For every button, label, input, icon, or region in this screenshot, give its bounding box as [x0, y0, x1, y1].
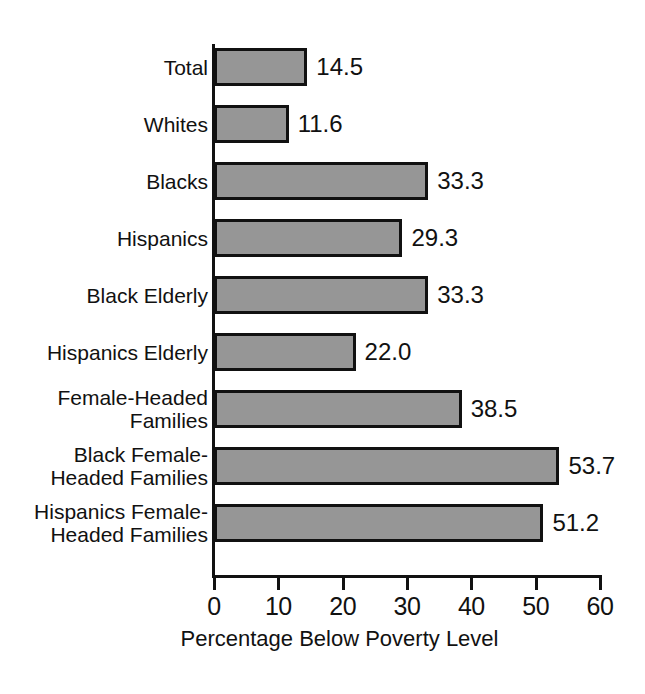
x-axis-tick — [342, 578, 345, 590]
x-axis-tick — [535, 578, 538, 590]
x-axis-tick-label: 0 — [184, 592, 244, 621]
x-axis-tick-label: 30 — [377, 592, 437, 621]
bar-row: Hispanics Female- Headed Families51.2 — [0, 504, 645, 542]
bar-row: Black Elderly33.3 — [0, 276, 645, 314]
bar-row: Black Female- Headed Families53.7 — [0, 447, 645, 485]
x-axis-title: Percentage Below Poverty Level — [0, 626, 645, 652]
bar — [214, 504, 543, 542]
x-axis-tick-label: 10 — [248, 592, 308, 621]
category-label: Total — [0, 56, 208, 79]
bar-value-label: 22.0 — [365, 338, 412, 366]
bar-row: Hispanics Elderly22.0 — [0, 333, 645, 371]
x-axis-tick — [470, 578, 473, 590]
x-axis-tick — [406, 578, 409, 590]
x-axis-tick-label: 40 — [441, 592, 501, 621]
bar — [214, 48, 307, 86]
category-label: Hispanics — [0, 227, 208, 250]
x-axis-tick — [599, 578, 602, 590]
bar — [214, 447, 559, 485]
category-label: Black Female- Headed Families — [0, 443, 208, 489]
x-axis-tick — [213, 578, 216, 590]
bar-row: Blacks33.3 — [0, 162, 645, 200]
bar — [214, 105, 289, 143]
bar-row: Whites11.6 — [0, 105, 645, 143]
bar — [214, 333, 356, 371]
bar-value-label: 38.5 — [471, 395, 518, 423]
poverty-bar-chart: 0102030405060 Total14.5Whites11.6Blacks3… — [0, 0, 645, 694]
bar-row: Hispanics29.3 — [0, 219, 645, 257]
bar-row: Female-Headed Families38.5 — [0, 390, 645, 428]
bar-value-label: 29.3 — [411, 224, 458, 252]
category-label: Hispanics Elderly — [0, 341, 208, 364]
bar-value-label: 11.6 — [298, 110, 343, 138]
category-label: Female-Headed Families — [0, 386, 208, 432]
category-label: Black Elderly — [0, 284, 208, 307]
bar-value-label: 51.2 — [552, 509, 599, 537]
bar-value-label: 33.3 — [437, 281, 484, 309]
bar-value-label: 33.3 — [437, 167, 484, 195]
x-axis-tick-label: 20 — [313, 592, 373, 621]
x-axis-tick-label: 50 — [506, 592, 566, 621]
bar-row: Total14.5 — [0, 48, 645, 86]
category-label: Blacks — [0, 170, 208, 193]
bar — [214, 162, 428, 200]
x-axis-tick-label: 60 — [570, 592, 630, 621]
bar — [214, 219, 402, 257]
bar — [214, 390, 462, 428]
bar — [214, 276, 428, 314]
category-label: Whites — [0, 113, 208, 136]
x-axis-tick — [277, 578, 280, 590]
bar-value-label: 14.5 — [316, 53, 363, 81]
bar-value-label: 53.7 — [568, 452, 615, 480]
category-label: Hispanics Female- Headed Families — [0, 500, 208, 546]
